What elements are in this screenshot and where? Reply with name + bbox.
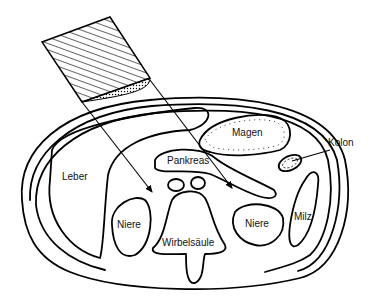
label-colon: Kolon (328, 137, 354, 148)
label-stomach: Magen (232, 127, 263, 138)
label-spleen: Milz (294, 211, 312, 222)
label-spine: Wirbelsäule (162, 237, 215, 248)
vessel-right (191, 177, 205, 189)
cross-section-diagram: Leber Magen Kolon Pankreas Wirbelsäule N… (0, 0, 371, 298)
spleen (289, 172, 318, 246)
label-kidney-right: Niere (245, 218, 269, 229)
label-liver: Leber (62, 171, 88, 182)
label-kidney-left: Niere (117, 219, 141, 230)
vessel-left (168, 179, 184, 191)
label-pancreas: Pankreas (167, 155, 209, 166)
colon (276, 152, 304, 175)
